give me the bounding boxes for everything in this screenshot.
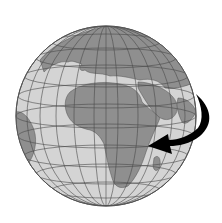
globe-illustration: [0, 0, 222, 223]
